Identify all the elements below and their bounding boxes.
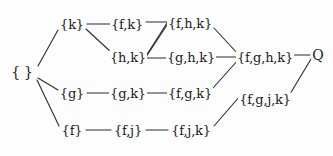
node-f: {f} [61,124,84,137]
node-fgjk: {f,g,j,k} [238,93,292,106]
node-gk: {g,k} [109,87,147,100]
node-fjk: {f,j,k} [170,124,212,137]
node-layer: { }{k}{f,k}{f,h,k}{h,k}{g,h,k}{f,g,h,k}Q… [0,0,333,156]
node-fk: {f,k} [110,18,144,31]
node-fgk: {f,g,k} [167,87,213,100]
node-g: {g} [59,87,85,100]
node-fj: {f,j} [113,124,143,137]
node-empty: { } [10,65,34,79]
node-fhk: {f,h,k} [167,17,213,30]
node-hk: {h,k} [109,51,147,64]
node-k: {k} [59,18,85,31]
lattice-diagram: { }{k}{f,k}{f,h,k}{h,k}{g,h,k}{f,g,h,k}Q… [0,0,333,156]
node-q: Q [311,48,324,62]
node-fghk: {f,g,h,k} [236,51,294,64]
node-ghk: {g,h,k} [166,51,216,64]
